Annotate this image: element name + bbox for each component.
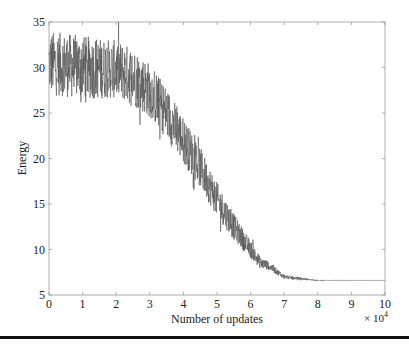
y-tick-label: 20 <box>33 152 45 166</box>
x-tick-label: 1 <box>80 297 86 311</box>
x-multiplier: × 104 <box>364 310 388 324</box>
energy-chart: 012345678910 5101520253035 Number of upd… <box>0 0 409 346</box>
x-tick-label: 10 <box>379 297 391 311</box>
x-tick-label: 4 <box>180 297 186 311</box>
x-tick-label: 2 <box>113 297 119 311</box>
x-tick-label: 3 <box>147 297 153 311</box>
x-tick-label: 6 <box>248 297 254 311</box>
x-tick-label: 7 <box>281 297 287 311</box>
energy-line <box>49 22 385 281</box>
x-tick-label: 8 <box>315 297 321 311</box>
y-tick-label: 30 <box>33 61 45 75</box>
bottom-rule <box>0 336 409 339</box>
y-tick-label: 5 <box>39 288 45 302</box>
y-tick-label: 15 <box>33 197 45 211</box>
y-tick-label: 10 <box>33 243 45 257</box>
y-tick-label: 25 <box>33 106 45 120</box>
x-tick-label: 5 <box>214 297 220 311</box>
x-tick-label: 9 <box>348 297 354 311</box>
x-axis-label: Number of updates <box>171 312 263 326</box>
x-tick-label: 0 <box>46 297 52 311</box>
y-tick-label: 35 <box>33 15 45 29</box>
y-axis-label: Energy <box>15 141 29 175</box>
